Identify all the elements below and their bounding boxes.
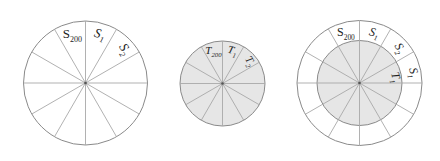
diagram-canvas: S200S1S2T200T1T2S200S1S2S1T1 — [0, 0, 440, 161]
circle-diagrams: S200S1S2T200T1T2S200S1S2S1T1 — [0, 0, 440, 161]
center-point — [221, 82, 224, 85]
circle-s: S200S1S2 — [24, 21, 148, 145]
circle-t: T200T1T2 — [180, 41, 265, 126]
center-point — [358, 82, 361, 85]
center-point — [84, 82, 87, 85]
circle-combined: S200S1S2S1T1 — [297, 21, 422, 146]
